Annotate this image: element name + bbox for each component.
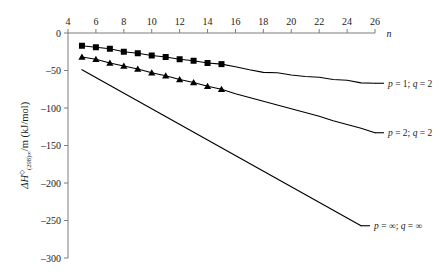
data-series-group — [78, 43, 375, 226]
series-annotations: p = 1; q = 2p = 2; q = 2p = ∞; q = ∞ — [361, 79, 432, 232]
series-label-0: p = 1; q = 2 — [387, 79, 432, 89]
x-tick-label: 18 — [258, 16, 268, 27]
chart-plot-area: 468101214161820222426n 0–50–100–150–200–… — [0, 0, 436, 274]
y-tick-label: –250 — [40, 215, 61, 226]
data-marker-square — [219, 61, 225, 67]
x-tick-label: 16 — [230, 16, 240, 27]
x-tick-label: 6 — [93, 16, 98, 27]
data-marker-square — [135, 50, 141, 56]
y-tick-label: –50 — [45, 65, 61, 76]
y-tick-label: –150 — [40, 140, 61, 151]
data-marker-square — [93, 44, 99, 50]
x-tick-label: 22 — [314, 16, 324, 27]
x-tick-label: 24 — [342, 16, 352, 27]
data-marker-square — [205, 60, 211, 66]
x-tick-label: 8 — [121, 16, 126, 27]
y-tick-label: –200 — [40, 178, 61, 189]
x-axis-title: n — [387, 28, 392, 39]
data-marker-square — [191, 58, 197, 64]
x-tick-label: 12 — [175, 16, 185, 27]
series-line-2 — [82, 70, 361, 226]
data-marker-square — [149, 53, 155, 59]
chart-figure: 468101214161820222426n 0–50–100–150–200–… — [0, 0, 436, 274]
data-marker-square — [163, 54, 169, 60]
x-tick-label: 10 — [147, 16, 157, 27]
y-tick-label: 0 — [56, 28, 61, 39]
series-label-2: p = ∞; q = ∞ — [373, 221, 423, 231]
data-marker-square — [107, 46, 113, 52]
x-axis: 468101214161820222426n — [66, 16, 392, 39]
y-tick-label: –100 — [40, 103, 61, 114]
data-marker-triangle — [78, 53, 85, 59]
data-marker-square — [79, 43, 85, 49]
data-marker-square — [177, 56, 183, 62]
x-tick-label: 14 — [203, 16, 213, 27]
y-tick-label: –300 — [40, 253, 61, 264]
x-tick-label: 26 — [370, 16, 380, 27]
y-axis: 0–50–100–150–200–250–300 — [40, 28, 68, 264]
series-label-1: p = 2; q = 2 — [387, 128, 432, 138]
data-marker-square — [121, 49, 127, 55]
x-tick-label: 20 — [286, 16, 296, 27]
x-tick-label: 4 — [66, 16, 71, 27]
